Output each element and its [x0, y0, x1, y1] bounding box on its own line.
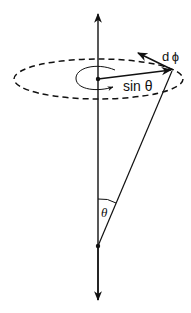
center-dot: [96, 77, 100, 81]
apex-dot: [96, 244, 100, 248]
diagram-canvas: d ϕ sin θ θ: [0, 0, 191, 313]
theta-label: θ: [101, 205, 108, 220]
dphi-label: d ϕ: [162, 49, 179, 64]
sin-theta-label: sin θ: [123, 78, 153, 94]
apex-angle-arc: [98, 199, 116, 203]
